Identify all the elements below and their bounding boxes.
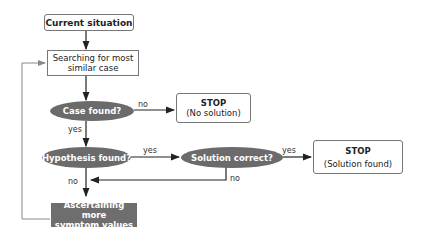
ascertaining-line2: symptom values xyxy=(55,220,133,230)
edge-label-case-yes: yes xyxy=(68,125,82,134)
action-ascertaining-symptoms: Ascertaining more symptom values xyxy=(51,203,137,227)
stop-title: STOP xyxy=(201,98,226,108)
start-node-current-situation: Current situation xyxy=(44,14,134,31)
stop-title: STOP xyxy=(345,146,370,156)
start-node-label: Current situation xyxy=(45,18,132,28)
stop-subtitle: (Solution found) xyxy=(324,159,392,169)
stop-subtitle: (No solution) xyxy=(186,108,241,118)
searching-line2: similar case xyxy=(68,63,119,73)
solution-correct-label: Solution correct? xyxy=(191,153,273,163)
hypothesis-found-label: Hypothesis found? xyxy=(42,153,131,163)
edge-label-hyp-yes: yes xyxy=(143,146,157,155)
edge-label-case-no: no xyxy=(138,100,148,109)
stop-node-no-solution: STOP (No solution) xyxy=(176,93,251,123)
edge-label-hyp-no: no xyxy=(68,177,78,186)
decision-hypothesis-found: Hypothesis found? xyxy=(42,147,131,168)
process-node-searching: Searching for most similar case xyxy=(47,50,139,76)
ascertaining-line1: Ascertaining more xyxy=(51,200,137,220)
edge-label-sol-no: no xyxy=(230,174,240,183)
case-found-label: Case found? xyxy=(63,106,121,116)
stop-node-solution-found: STOP (Solution found) xyxy=(313,140,403,174)
decision-case-found: Case found? xyxy=(50,101,134,121)
decision-solution-correct: Solution correct? xyxy=(181,147,283,168)
edge-label-sol-yes: yes xyxy=(282,146,296,155)
searching-line1: Searching for most xyxy=(53,53,134,63)
